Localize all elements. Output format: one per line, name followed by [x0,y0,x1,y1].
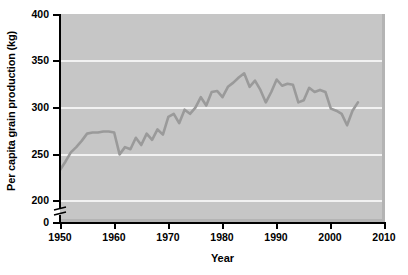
y-tick-label-0: 0 [9,216,49,228]
x-tick-2000 [330,222,332,229]
y-tick-label-300: 300 [9,101,49,113]
y-tick-0 [53,222,60,224]
y-axis-break-icon [52,204,68,218]
y-axis-spine [59,14,61,208]
y-tick-250 [53,154,60,156]
x-tick-1990 [276,222,278,229]
series-line-per-capita-grain-production [60,73,358,170]
y-tick-label-350: 350 [9,54,49,66]
data-line-svg [60,14,385,222]
y-tick-label-250: 250 [9,148,49,160]
x-tick-label-1950: 1950 [40,231,80,243]
y-tick-label-200: 200 [9,194,49,206]
x-tick-1970 [168,222,170,229]
y-tick-label-400: 400 [9,8,49,20]
x-tick-1950 [60,222,62,229]
x-tick-label-1970: 1970 [148,231,188,243]
y-tick-400 [53,14,60,16]
x-tick-2010 [384,222,386,229]
x-tick-1960 [114,222,116,229]
y-tick-200 [53,200,60,202]
x-tick-label-2010: 2010 [364,231,404,243]
x-axis-title: Year [60,252,385,264]
x-tick-label-1990: 1990 [256,231,296,243]
x-tick-1980 [222,222,224,229]
x-tick-label-2000: 2000 [310,231,350,243]
plot-area [60,14,385,222]
x-tick-label-1960: 1960 [94,231,134,243]
y-tick-300 [53,107,60,109]
chart-figure: Per capita grain production (kg) 400 350… [0,0,408,275]
x-tick-label-1980: 1980 [202,231,242,243]
y-tick-350 [53,60,60,62]
